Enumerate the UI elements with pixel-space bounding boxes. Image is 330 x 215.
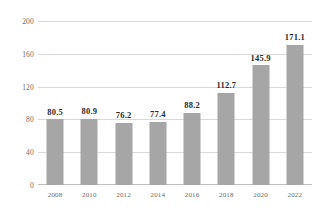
x-axis-tick-label-2022: 2022 [278, 192, 312, 199]
bar-2014[interactable] [149, 122, 166, 186]
bar-value-label: 112.7 [217, 81, 237, 90]
x-axis-tick-label-2008: 2008 [38, 192, 72, 199]
x-axis-tick-label-2020: 2020 [244, 192, 278, 199]
x-axis-tick-label-2018: 2018 [209, 192, 243, 199]
x-axis-tick-label-2014: 2014 [141, 192, 175, 199]
bar-slot-2018: 112.7 [209, 21, 243, 185]
bar-2008[interactable] [47, 119, 64, 185]
bar-2010[interactable] [81, 119, 98, 185]
bar-2018[interactable] [218, 93, 235, 185]
bar-slot-2016: 88.2 [175, 21, 209, 185]
bar-2016[interactable] [184, 113, 201, 185]
bar-slot-2010: 80.9 [72, 21, 106, 185]
bar-value-label: 80.9 [82, 107, 98, 116]
bar-slot-2020: 145.9 [244, 21, 278, 185]
bars-layer: 80.5 80.9 76.2 77.4 88.2 [38, 21, 312, 185]
y-axis-tick-label: 160 [8, 51, 34, 59]
bar-value-label: 76.2 [116, 111, 132, 120]
bar-2012[interactable] [115, 123, 132, 186]
bar-value-label: 77.4 [150, 110, 166, 119]
y-axis-tick-label: 40 [8, 149, 34, 157]
plot-area: 80.5 80.9 76.2 77.4 88.2 [38, 21, 312, 185]
x-axis-tick-label-2010: 2010 [72, 192, 106, 199]
y-axis-tick-label: 200 [8, 18, 34, 26]
bar-slot-2014: 77.4 [141, 21, 175, 185]
bar-value-label: 80.5 [47, 108, 63, 117]
bar-chart: 200 160 120 80 40 0 80.5 80.9 76.2 [0, 0, 330, 215]
bar-slot-2012: 76.2 [107, 21, 141, 185]
bar-2022[interactable] [286, 45, 303, 185]
y-axis-tick-label: 80 [8, 116, 34, 124]
y-axis-tick-label: 120 [8, 84, 34, 92]
bar-2020[interactable] [252, 65, 269, 185]
x-axis-tick-label-2016: 2016 [175, 192, 209, 199]
bar-value-label: 145.9 [251, 54, 271, 63]
x-axis-tick-label-2012: 2012 [107, 192, 141, 199]
bar-slot-2022: 171.1 [278, 21, 312, 185]
bar-value-label: 88.2 [184, 101, 200, 110]
y-axis-tick-label: 0 [8, 182, 34, 190]
bar-value-label: 171.1 [285, 33, 305, 42]
bar-slot-2008: 80.5 [38, 21, 72, 185]
